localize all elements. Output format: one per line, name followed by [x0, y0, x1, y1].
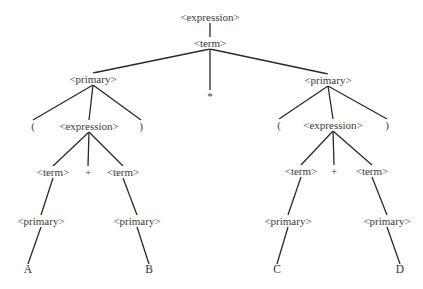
nonterminal-node: <term> — [355, 166, 390, 177]
tree-edge — [88, 132, 89, 166]
nonterminal-node: <primary> — [303, 75, 352, 86]
tree-edge — [41, 178, 53, 215]
paren-symbol: ) — [384, 120, 390, 131]
tree-edge — [279, 86, 328, 119]
tree-edge — [333, 131, 334, 165]
nonterminal-node: <expression> — [58, 121, 119, 132]
tree-edge — [372, 177, 387, 215]
nonterminal-node: <primary> — [112, 216, 161, 227]
nonterminal-node: <primary> — [68, 74, 117, 85]
operator-symbol: + — [84, 167, 92, 178]
tree-edge — [89, 85, 93, 120]
tree-edge — [328, 86, 333, 119]
tree-edge — [288, 177, 301, 215]
nonterminal-node: <term> — [36, 167, 71, 178]
nonterminal-node: <primary> — [16, 216, 65, 227]
leaf-node: C — [272, 264, 282, 276]
tree-edge — [89, 132, 123, 166]
paren-symbol: ( — [30, 121, 36, 132]
tree-edge — [33, 85, 93, 120]
operator-symbol: + — [330, 166, 338, 177]
tree-edge — [301, 131, 333, 165]
tree-edge — [93, 85, 141, 120]
tree-edge — [387, 227, 400, 264]
nonterminal-node: <term> — [106, 167, 141, 178]
tree-edge — [328, 86, 387, 119]
leaf-node: B — [144, 264, 154, 276]
leaf-node: A — [23, 264, 33, 276]
paren-symbol: ( — [276, 120, 282, 131]
tree-edge — [123, 178, 137, 215]
leaf-node: D — [395, 264, 405, 276]
nonterminal-node: <term> — [284, 166, 319, 177]
nonterminal-node: <expression> — [179, 12, 240, 23]
nonterminal-node: <term> — [193, 38, 228, 49]
nonterminal-node: <primary> — [362, 216, 411, 227]
operator-symbol: * — [206, 91, 214, 102]
nonterminal-node: <primary> — [263, 216, 312, 227]
nonterminal-node: <expression> — [302, 120, 363, 131]
tree-edge — [28, 227, 41, 264]
tree-edge — [53, 132, 89, 166]
tree-edge — [93, 49, 210, 73]
tree-edge — [277, 227, 288, 264]
tree-edge — [210, 49, 328, 74]
paren-symbol: ) — [138, 121, 144, 132]
tree-edge — [333, 131, 372, 165]
parse-tree-diagram: <expression><term><primary>*<primary>(<e… — [0, 0, 423, 289]
tree-edge — [137, 227, 149, 264]
